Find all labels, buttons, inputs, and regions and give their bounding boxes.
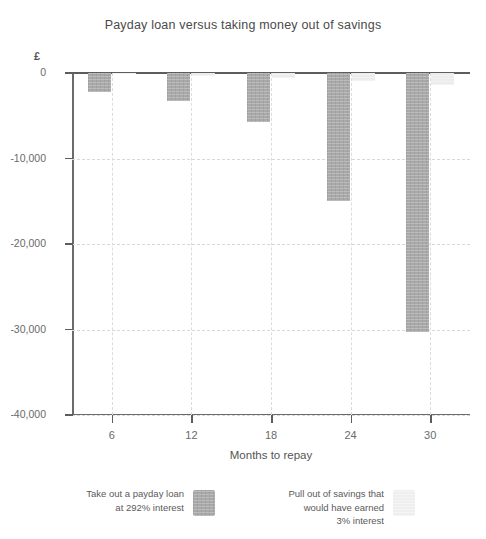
x-tick-mark [271,415,273,423]
chart-legend: Take out a payday loan at 292% interestP… [60,487,460,539]
gridline-vertical [271,73,272,415]
bar-payday-loan-18m [247,73,270,122]
gridline-vertical [112,73,113,415]
chart-title: Payday loan versus taking money out of s… [0,18,486,32]
y-tick-label: 0 [40,66,46,78]
x-tick-mark [430,415,432,423]
y-tick-label: -30,000 [10,323,46,335]
chart-container: Payday loan versus taking money out of s… [0,0,486,539]
bar-payday-loan-12m [167,73,190,101]
y-tick-label: -40,000 [10,408,46,420]
legend-label: Pull out of savings that would have earn… [268,487,384,528]
x-tick-label: 6 [92,429,132,441]
legend-entry: Pull out of savings that would have earn… [268,487,415,528]
legend-entry: Take out a payday loan at 292% interest [68,487,215,516]
bar-savings-30m [431,73,454,85]
bar-savings-18m [272,73,295,78]
x-tick-label: 12 [171,429,211,441]
x-tick-label: 18 [251,429,291,441]
y-axis-unit-label: £ [34,50,40,62]
y-tick-mark [65,414,73,416]
legend-swatch-light [393,490,415,516]
legend-swatch-dark [193,490,215,516]
bar-payday-loan-30m [406,73,429,332]
y-tick-mark [65,72,73,74]
bar-savings-12m [192,73,215,76]
gridline-vertical [351,73,352,415]
x-tick-mark [191,415,193,423]
gridline-vertical [430,73,431,415]
y-tick-mark [65,243,73,245]
bar-payday-loan-24m [327,73,350,201]
x-axis-title: Months to repay [72,449,470,461]
x-tick-mark [351,415,353,423]
y-tick-label: -10,000 [10,152,46,164]
legend-label: Take out a payday loan at 292% interest [68,487,184,514]
y-tick-label: -20,000 [10,237,46,249]
plot-area: 0-10,000-20,000-30,000-40,000612182430 [72,73,470,415]
bar-savings-6m [113,73,136,74]
gridline-vertical [191,73,192,415]
bar-savings-24m [352,73,375,81]
x-tick-label: 30 [410,429,450,441]
bar-payday-loan-6m [88,73,111,92]
y-tick-mark [65,329,73,331]
y-tick-mark [65,158,73,160]
x-tick-label: 24 [331,429,371,441]
x-tick-mark [112,415,114,423]
